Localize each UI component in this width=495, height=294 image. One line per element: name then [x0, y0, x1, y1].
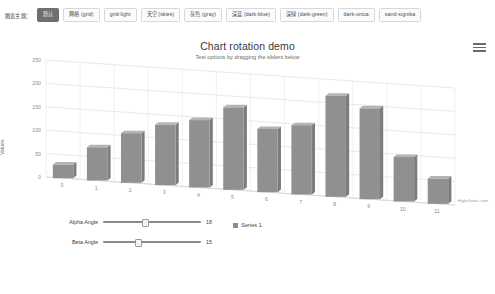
svg-text:9: 9 [367, 203, 370, 209]
alpha-angle-label: Alpha Angle [60, 219, 98, 225]
theme-button-dark-green[interactable]: 深绿 (dark-green) [280, 8, 333, 22]
alpha-angle-value: 18 [206, 219, 220, 225]
svg-text:150: 150 [32, 104, 41, 110]
svg-text:200: 200 [32, 80, 41, 86]
highcharts-container: Chart rotation demo Test options by drag… [0, 30, 495, 294]
alpha-slider-track [103, 221, 201, 223]
svg-text:100: 100 [32, 127, 41, 133]
chart-svg: 05010015020025001234567891011 [0, 30, 495, 294]
slider-controls: Alpha Angle 18 Beta Angle 15 [0, 212, 495, 252]
svg-text:7: 7 [299, 199, 302, 205]
alpha-angle-slider[interactable] [103, 218, 201, 227]
theme-button-grid-light[interactable]: grid-light [104, 8, 137, 22]
theme-toolbar-label: 图表主题： [5, 12, 33, 19]
beta-angle-label: Beta Angle [60, 239, 98, 245]
svg-text:8: 8 [333, 201, 336, 207]
svg-text:4: 4 [197, 192, 200, 198]
svg-text:250: 250 [32, 57, 41, 63]
theme-button-default[interactable]: 默认 [37, 8, 59, 22]
theme-button-gray[interactable]: 灰色 (gray) [184, 8, 222, 22]
beta-angle-slider[interactable] [103, 238, 201, 247]
theme-button-dark-unica[interactable]: dark-unica [338, 8, 375, 22]
beta-angle-value: 15 [206, 239, 220, 245]
svg-text:6: 6 [265, 196, 268, 202]
alpha-angle-row: Alpha Angle 18 [0, 212, 495, 232]
theme-button-sand-signika[interactable]: sand-signika [379, 8, 421, 22]
svg-text:0: 0 [61, 182, 64, 188]
theme-button-dark-blue[interactable]: 深蓝 (dark-blue) [226, 8, 276, 22]
theme-button-skies[interactable]: 天空 (skies) [141, 8, 181, 22]
theme-button-grid[interactable]: 网格 (grid) [63, 8, 99, 22]
plot-area: Values 05010015020025001234567891011 [0, 30, 495, 294]
svg-text:50: 50 [35, 151, 41, 157]
svg-text:10: 10 [400, 206, 406, 212]
svg-text:2: 2 [129, 187, 132, 193]
svg-text:3: 3 [163, 189, 166, 195]
beta-slider-track [103, 241, 201, 243]
alpha-slider-knob[interactable] [142, 219, 149, 227]
chart-credits: Highcharts.com [457, 198, 488, 203]
theme-toolbar: 图表主题： 默认 网格 (grid) grid-light 天空 (skies)… [0, 0, 495, 30]
beta-slider-knob[interactable] [135, 239, 142, 247]
chart-demo-page: 图表主题： 默认 网格 (grid) grid-light 天空 (skies)… [0, 0, 495, 294]
svg-text:0: 0 [38, 174, 41, 180]
svg-text:1: 1 [95, 185, 98, 191]
beta-angle-row: Beta Angle 15 [0, 232, 495, 252]
svg-text:5: 5 [231, 194, 234, 200]
